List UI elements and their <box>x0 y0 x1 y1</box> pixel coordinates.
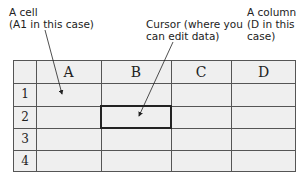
annotation-arrows <box>0 0 305 181</box>
cursor-arrow-icon <box>139 42 173 116</box>
spreadsheet-diagram: A cell (A1 in this case) Cursor (where y… <box>0 0 305 181</box>
cell-arrow-icon <box>45 30 62 94</box>
